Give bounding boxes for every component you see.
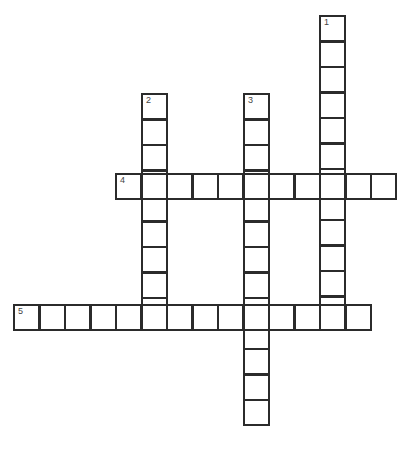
clue-number-1: 1 [324, 18, 329, 27]
crossword-cell[interactable] [243, 348, 270, 375]
crossword-cell[interactable] [141, 119, 168, 146]
crossword-cell[interactable] [141, 221, 168, 248]
crossword-cell[interactable] [319, 219, 346, 246]
crossword-cell[interactable]: 2 [141, 93, 168, 120]
crossword-cell[interactable] [141, 173, 168, 200]
crossword-cell[interactable] [90, 304, 117, 331]
clue-number-3: 3 [248, 96, 253, 105]
crossword-cell[interactable]: 4 [115, 173, 142, 200]
crossword-cell[interactable] [319, 304, 346, 331]
crossword-cell[interactable] [268, 304, 295, 331]
crossword-cell[interactable] [294, 173, 321, 200]
crossword-cell[interactable] [319, 143, 346, 170]
crossword-cell[interactable] [192, 173, 219, 200]
crossword-cell[interactable] [243, 246, 270, 273]
crossword-cell[interactable] [243, 272, 270, 299]
crossword-cell[interactable] [141, 144, 168, 171]
crossword-cell[interactable] [217, 304, 244, 331]
clue-number-2: 2 [146, 96, 151, 105]
crossword-cell[interactable] [243, 399, 270, 426]
crossword-cell[interactable] [319, 41, 346, 68]
crossword-cell[interactable] [268, 173, 295, 200]
crossword-cell[interactable] [319, 117, 346, 144]
crossword-cell[interactable]: 3 [243, 93, 270, 120]
crossword-cell[interactable] [319, 66, 346, 93]
crossword-cell[interactable] [217, 173, 244, 200]
crossword-cell[interactable] [243, 304, 270, 331]
crossword-cell[interactable] [243, 144, 270, 171]
crossword-cell[interactable] [319, 92, 346, 119]
clue-number-4: 4 [120, 176, 125, 185]
crossword-cell[interactable] [243, 119, 270, 146]
crossword-cell[interactable] [294, 304, 321, 331]
crossword-cell[interactable] [39, 304, 66, 331]
crossword-cell[interactable] [166, 173, 193, 200]
crossword-cell[interactable] [141, 272, 168, 299]
crossword-cell[interactable] [319, 173, 346, 200]
crossword-cell[interactable] [243, 173, 270, 200]
clue-number-5: 5 [18, 307, 23, 316]
crossword-cell[interactable] [141, 304, 168, 331]
crossword-cell[interactable] [243, 221, 270, 248]
crossword-cell[interactable] [141, 246, 168, 273]
crossword-cell[interactable] [243, 374, 270, 401]
crossword-cell[interactable] [192, 304, 219, 331]
crossword-cell[interactable] [370, 173, 397, 200]
crossword-cell[interactable]: 1 [319, 15, 346, 42]
crossword-cell[interactable] [115, 304, 142, 331]
crossword-cell[interactable] [166, 304, 193, 331]
crossword-cell[interactable] [345, 173, 372, 200]
crossword-cell[interactable] [345, 304, 372, 331]
crossword-cell[interactable]: 5 [13, 304, 40, 331]
crossword-cell[interactable] [319, 245, 346, 272]
crossword-cell[interactable] [319, 270, 346, 297]
crossword-cell[interactable] [64, 304, 91, 331]
crossword-grid: 12345 [0, 0, 405, 450]
